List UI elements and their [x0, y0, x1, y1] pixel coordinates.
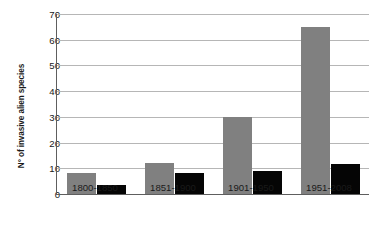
bar-group — [223, 14, 282, 194]
plot-area — [56, 14, 369, 195]
y-tick-label: 40 — [20, 86, 60, 97]
x-tick-label: 1901-1950 — [228, 182, 274, 193]
y-tick-label: 50 — [20, 60, 60, 71]
bar-chart-figure: N° of invasive alien species 01020304050… — [0, 0, 382, 232]
bar-group — [145, 14, 204, 194]
x-tick-label: 1851-1900 — [150, 182, 196, 193]
y-tick-label: 0 — [20, 189, 60, 200]
bar-group — [67, 14, 126, 194]
bar-series-1-1951-2008 — [301, 27, 330, 194]
y-tick-label: 10 — [20, 163, 60, 174]
x-tick-label: 1951-2008 — [306, 182, 352, 193]
y-tick-label: 20 — [20, 137, 60, 148]
y-tick-label: 70 — [20, 9, 60, 20]
y-tick-label: 30 — [20, 111, 60, 122]
y-tick-label: 60 — [20, 34, 60, 45]
bar-group — [301, 14, 360, 194]
x-tick-label: 1800-1850 — [72, 182, 118, 193]
